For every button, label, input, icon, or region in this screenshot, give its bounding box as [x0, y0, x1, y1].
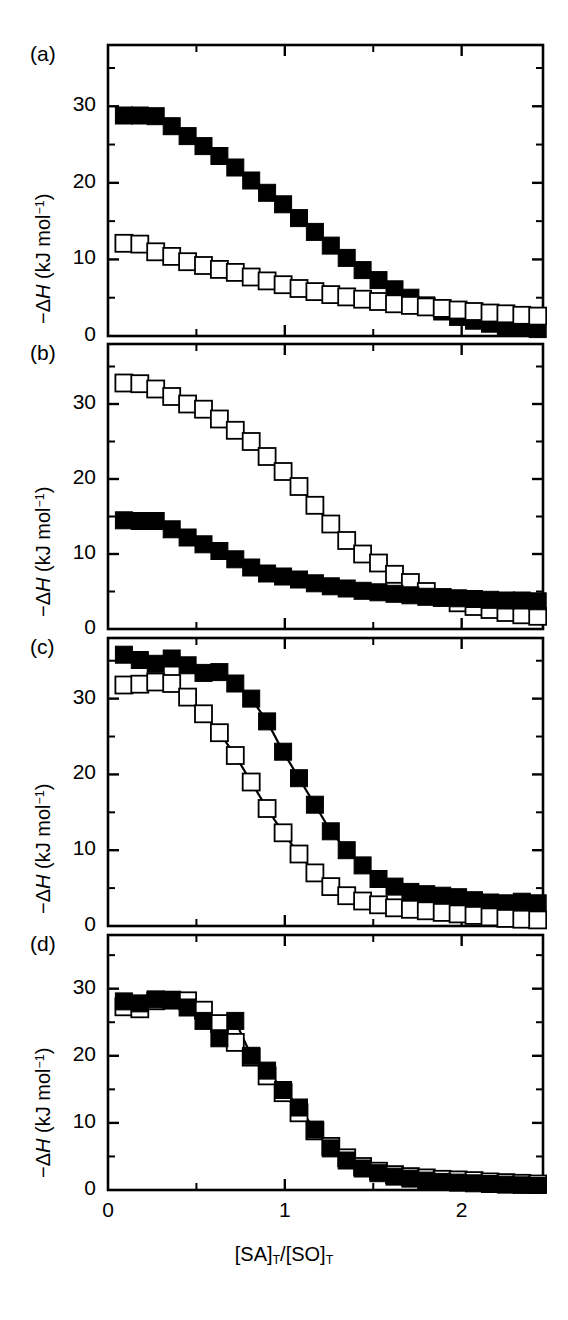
- data-point: [147, 991, 164, 1008]
- data-point: [529, 1178, 546, 1195]
- data-point: [163, 992, 180, 1009]
- data-point: [322, 1140, 339, 1157]
- plot-area-d: [104, 931, 547, 1194]
- data-point: [418, 1172, 435, 1189]
- data-point: [259, 1062, 276, 1079]
- x-tick-label: 0: [88, 1198, 128, 1222]
- series-filled-squares: [115, 991, 546, 1194]
- data-point: [211, 1030, 228, 1047]
- data-point: [497, 1176, 514, 1193]
- data-point: [179, 999, 196, 1016]
- panel-label-d: (d): [30, 932, 56, 956]
- data-point: [370, 1165, 387, 1182]
- data-point: [291, 1099, 308, 1116]
- panel-d: (d)−ΔH (kJ mol−1)0102030: [0, 0, 568, 1320]
- data-point: [306, 1121, 323, 1138]
- data-point: [131, 995, 148, 1012]
- data-point: [450, 1174, 467, 1191]
- y-tick-label: 30: [56, 975, 96, 999]
- series-open-squares: [115, 992, 546, 1193]
- x-tick-label: 2: [442, 1198, 482, 1222]
- data-point: [195, 1012, 212, 1029]
- data-point: [243, 1047, 260, 1064]
- data-point: [386, 1168, 403, 1185]
- series-line-filled-squares: [124, 999, 538, 1186]
- data-point: [402, 1170, 419, 1187]
- data-point: [434, 1173, 451, 1190]
- data-point: [227, 1012, 244, 1029]
- y-tick-label: 10: [56, 1109, 96, 1133]
- y-tick-label: 20: [56, 1042, 96, 1066]
- y-axis-title: −ΔH (kJ mol−1): [32, 1048, 55, 1178]
- data-point: [115, 993, 132, 1010]
- data-point: [275, 1082, 292, 1099]
- data-point: [466, 1175, 483, 1192]
- itc-figure: (a)−ΔH (kJ mol−1)0102030(b)−ΔH (kJ mol−1…: [0, 0, 568, 1320]
- y-tick-label: 0: [56, 1176, 96, 1200]
- x-axis-title: [SA]T/[SO]T: [0, 1243, 568, 1267]
- x-tick-label: 1: [265, 1198, 305, 1222]
- data-point: [513, 1177, 530, 1194]
- data-point: [338, 1152, 355, 1169]
- data-point: [227, 1034, 244, 1051]
- data-point: [482, 1176, 499, 1193]
- data-point: [354, 1160, 371, 1177]
